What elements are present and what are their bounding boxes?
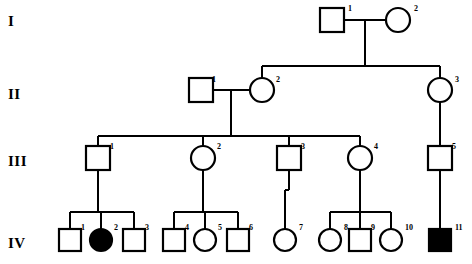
- individual-IV-8-number-label: 8: [344, 224, 348, 232]
- individual-II-1-male-symbol[interactable]: [189, 78, 213, 102]
- individual-IV-11-number-label: 11: [455, 224, 463, 232]
- individual-III-1-male-symbol[interactable]: [86, 146, 110, 170]
- individual-II-2-female-symbol[interactable]: [250, 78, 274, 102]
- individual-IV-10-female-symbol[interactable]: [380, 229, 402, 251]
- individual-II-2-number-label: 2: [276, 76, 280, 84]
- individual-II-3-female-symbol[interactable]: [428, 78, 452, 102]
- individual-IV-6-number-label: 6: [249, 224, 253, 232]
- individual-III-3-male-symbol[interactable]: [277, 146, 301, 170]
- generation-label-I: I: [8, 14, 14, 29]
- pedigree-canvas: [0, 0, 472, 264]
- individual-II-3-number-label: 3: [455, 76, 459, 84]
- individual-IV-11-male-symbol[interactable]: [429, 229, 451, 251]
- individual-III-2-female-symbol[interactable]: [191, 146, 215, 170]
- individual-II-1-number-label: 1: [212, 76, 216, 84]
- individual-I-1-number-label: 1: [348, 5, 352, 13]
- pedigree-chart: IIIIIIIV 12123123451234567891011: [0, 0, 472, 264]
- individual-III-4-female-symbol[interactable]: [348, 146, 372, 170]
- individual-IV-9-male-symbol[interactable]: [349, 229, 371, 251]
- individual-III-2-number-label: 2: [217, 143, 221, 151]
- individual-I-1-male-symbol[interactable]: [320, 8, 344, 32]
- individual-IV-1-number-label: 1: [81, 224, 85, 232]
- individual-III-5-male-symbol[interactable]: [428, 146, 452, 170]
- individual-IV-7-number-label: 7: [299, 224, 303, 232]
- individual-IV-2-number-label: 2: [114, 224, 118, 232]
- symbols-layer: [59, 8, 452, 251]
- individual-IV-5-female-symbol[interactable]: [194, 229, 216, 251]
- individual-IV-4-number-label: 4: [185, 224, 189, 232]
- individual-I-2-female-symbol[interactable]: [386, 8, 410, 32]
- individual-IV-8-female-symbol[interactable]: [319, 229, 341, 251]
- individual-IV-2-female-symbol[interactable]: [90, 229, 112, 251]
- individual-III-1-number-label: 1: [110, 143, 114, 151]
- generation-label-II: II: [8, 87, 21, 102]
- individual-I-2-number-label: 2: [414, 5, 418, 13]
- connector-lines: [70, 20, 440, 229]
- individual-IV-10-number-label: 10: [405, 224, 413, 232]
- individual-IV-9-number-label: 9: [371, 224, 375, 232]
- generation-label-IV: IV: [8, 236, 26, 251]
- individual-IV-6-male-symbol[interactable]: [227, 229, 249, 251]
- individual-IV-7-female-symbol[interactable]: [274, 229, 296, 251]
- individual-IV-3-number-label: 3: [145, 224, 149, 232]
- individual-IV-1-male-symbol[interactable]: [59, 229, 81, 251]
- individual-III-3-number-label: 3: [301, 143, 305, 151]
- individual-IV-3-male-symbol[interactable]: [123, 229, 145, 251]
- individual-IV-5-number-label: 5: [218, 224, 222, 232]
- individual-III-4-number-label: 4: [374, 143, 378, 151]
- individual-IV-4-male-symbol[interactable]: [163, 229, 185, 251]
- individual-III-5-number-label: 5: [452, 143, 456, 151]
- generation-label-III: III: [8, 154, 27, 169]
